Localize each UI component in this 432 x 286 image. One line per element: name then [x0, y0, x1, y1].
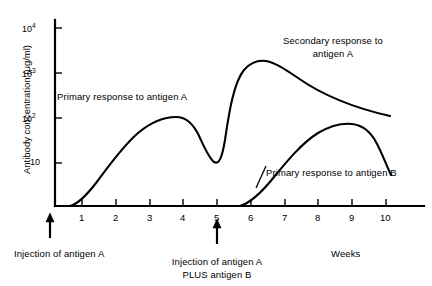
- x-tick-label-9: 9: [349, 212, 354, 223]
- x-axis-title: Weeks: [331, 247, 360, 260]
- curve-secondary-response-a: [214, 61, 390, 163]
- annotation-secondary-response-a: Secondary response to antigen A: [283, 34, 383, 60]
- antibody-response-chart: Antibody concentration (μg/ml) 104 103 1…: [0, 0, 432, 286]
- caption-injection-antigen-a-plus-b: Injection of antigen A PLUS antigen B: [162, 255, 272, 281]
- x-tick-label-3: 3: [147, 212, 152, 223]
- x-tick-label-4: 4: [180, 212, 185, 223]
- annotation-primary-response-b: Primary response to antigen B: [266, 166, 397, 179]
- x-tick-label-1: 1: [79, 212, 84, 223]
- x-tick-label-6: 6: [248, 212, 253, 223]
- caption-injection-ab-line1: Injection of antigen A: [172, 256, 262, 267]
- leader-line-primary-b: [256, 166, 266, 188]
- injection-arrow-antigen-a: [46, 213, 54, 238]
- curve-primary-response-b: [240, 124, 391, 206]
- x-tick-label-10: 10: [380, 212, 391, 223]
- annotation-secondary-response-a-line2: antigen A: [283, 47, 383, 60]
- x-tick-label-2: 2: [113, 212, 118, 223]
- annotation-secondary-response-a-line1: Secondary response to: [283, 35, 383, 46]
- x-tick-label-5: 5: [214, 212, 219, 223]
- y-tick-label-10: 10: [30, 157, 40, 167]
- caption-injection-antigen-a: Injection of antigen A: [14, 247, 104, 260]
- curve-primary-response-a: [70, 117, 214, 206]
- y-tick-label-100: 102: [22, 112, 36, 124]
- y-tick-label-10000: 104: [22, 22, 36, 34]
- caption-injection-ab-line2: PLUS antigen B: [162, 268, 272, 281]
- y-tick-label-1000: 103: [22, 67, 36, 79]
- x-tick-label-7: 7: [282, 212, 287, 223]
- x-tick-label-8: 8: [315, 212, 320, 223]
- annotation-primary-response-a: Primary response to antigen A: [57, 90, 187, 103]
